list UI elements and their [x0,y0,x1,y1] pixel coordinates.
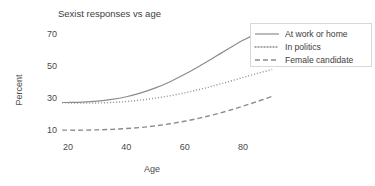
x-axis-title: Age [144,164,160,174]
chart-title: Sexist responses vs age [58,8,161,19]
y-tick-label: 70 [47,29,57,39]
y-tick-label: 10 [47,125,57,135]
y-tick-label: 50 [47,61,57,71]
series-line [62,29,272,103]
series-lines [62,29,272,130]
series-line [62,70,272,104]
x-tick-label: 80 [238,142,248,152]
x-axis-tick-labels: 20406080 [63,142,248,152]
x-tick-label: 60 [180,142,190,152]
line-chart: Sexist responses vs age 10305070 2040608… [0,0,375,186]
legend-label: At work or home [285,29,348,39]
chart-legend[interactable]: At work or homeIn politicsFemale candida… [251,24,372,67]
x-tick-label: 40 [121,142,131,152]
legend-label: In politics [285,42,321,52]
chart-figure: Sexist responses vs age 10305070 2040608… [0,0,375,186]
legend-label: Female candidate [285,55,354,65]
x-tick-label: 20 [63,142,73,152]
y-axis-title: Percent [14,74,24,106]
y-tick-label: 30 [47,93,57,103]
y-axis-tick-labels: 10305070 [47,29,57,135]
